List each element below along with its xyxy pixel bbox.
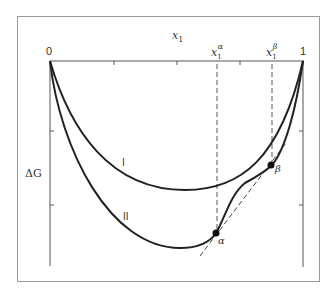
point-beta-label: β <box>274 163 281 174</box>
x-max-label: 1 <box>300 45 306 57</box>
point-beta <box>268 162 275 169</box>
common-tangent-line <box>200 143 286 256</box>
x-axis-label: x1 <box>172 29 183 44</box>
curve-I-label: I <box>122 157 125 168</box>
x1-alpha-label: x1α <box>211 42 224 61</box>
x-min-label: 0 <box>46 45 52 57</box>
point-alpha-label: α <box>218 235 225 246</box>
gibbs-energy-diagram: x1 0 1 x1α x1β ΔG I II α β <box>0 0 332 295</box>
curve-II-label: II <box>123 211 129 222</box>
y-axis-label: ΔG <box>25 167 42 180</box>
curve-II <box>50 61 303 248</box>
x1-beta-label: x1β <box>266 42 278 61</box>
